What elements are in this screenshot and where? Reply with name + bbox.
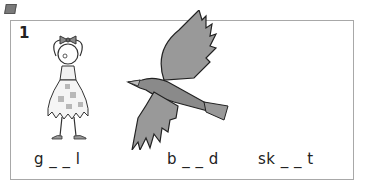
- square-bullet-icon: [4, 4, 17, 14]
- bird-illustration-icon: [124, 10, 234, 150]
- word-bird: b _ _ d: [167, 150, 219, 168]
- exercise-number: 1: [19, 24, 29, 42]
- word-skirt: sk _ _ t: [258, 150, 314, 168]
- word-girl: g _ _ l: [34, 150, 81, 168]
- girl-illustration-icon: [38, 28, 98, 146]
